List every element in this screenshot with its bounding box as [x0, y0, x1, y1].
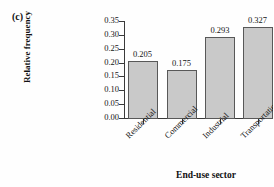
bar-value-label: 0.175: [162, 58, 202, 68]
bar-chart-plot: 0.350.300.250.200.150.100.050.00 Relativ…: [0, 0, 273, 187]
y-axis-title: Relative frequency: [22, 0, 32, 95]
bar-value-label: 0.205: [123, 49, 163, 59]
y-axis-tick: [119, 76, 124, 77]
y-axis-tick: [119, 118, 124, 119]
y-axis-tick-label: 0.20: [93, 57, 119, 67]
y-axis-tick: [119, 90, 124, 91]
figure-panel-c: (c) 0.350.300.250.200.150.100.050.00 Rel…: [0, 0, 273, 187]
y-axis-tick-label: 0.35: [93, 15, 119, 25]
y-axis-tick-label: 0.10: [93, 84, 119, 94]
y-axis-tick-label: 0.15: [93, 70, 119, 80]
y-axis-tick: [119, 21, 124, 22]
y-axis-line: [124, 21, 125, 119]
x-axis-title: End-use sector: [148, 170, 264, 180]
y-axis-tick: [119, 63, 124, 64]
y-axis-tick: [119, 104, 124, 105]
y-axis-tick-label: 0.05: [93, 98, 119, 108]
y-axis-tick-label: 0.00: [93, 112, 119, 122]
y-axis-tick-label: 0.25: [93, 43, 119, 53]
y-axis-tick-label: 0.30: [93, 29, 119, 39]
bar-value-label: 0.327: [238, 15, 274, 25]
y-axis-tick: [119, 35, 124, 36]
bar-value-label: 0.293: [200, 25, 240, 35]
bar: [205, 37, 235, 119]
